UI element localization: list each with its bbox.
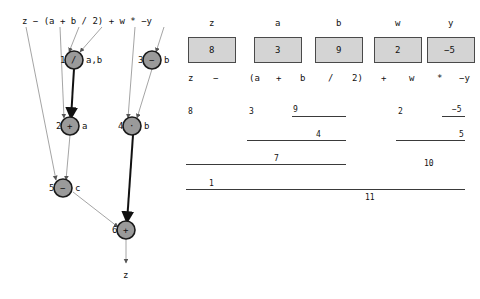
eval-leaf-z: 8 xyxy=(188,108,193,116)
variable-value-z: 8 xyxy=(209,46,214,55)
variable-name-b: b xyxy=(336,19,341,28)
eval-rule-a-plus xyxy=(247,140,346,141)
dag-node-1-op: / xyxy=(71,56,76,65)
dag-node-2-register: a xyxy=(82,122,87,131)
dag-node-1-register: a,b xyxy=(86,56,102,65)
dag-node-4-op: · xyxy=(129,122,134,131)
eval-leaf-y: −5 xyxy=(452,106,462,114)
token-z: z xyxy=(188,74,193,83)
eval-value-11: 11 xyxy=(365,194,375,202)
dag-node-5-op: − xyxy=(60,184,65,193)
dag-node-4-register: b xyxy=(144,122,149,131)
token-w: w xyxy=(409,74,414,83)
variable-name-a: a xyxy=(275,19,280,28)
dag-node-6-op: + xyxy=(123,226,128,235)
token-mul: * xyxy=(437,74,442,83)
eval-leaf-b: 9 xyxy=(293,106,298,114)
dag-node-3-index: 3 xyxy=(138,56,143,65)
variable-value-b: 9 xyxy=(336,46,341,55)
variable-name-y: y xyxy=(448,19,453,28)
eval-leaf-a: 3 xyxy=(249,108,254,116)
dag-node-5-register: c xyxy=(75,184,80,193)
dag-node-3-register: b xyxy=(164,56,169,65)
token-plus-1: + xyxy=(276,74,281,83)
screenshot-root: z − (a + b / 2) + w * −y / − + · − + 1 3… xyxy=(0,0,480,299)
eval-value-10: 10 xyxy=(424,160,434,168)
token-minus: − xyxy=(213,74,218,83)
dag-node-1-index: 1 xyxy=(60,56,65,65)
dag-node-2-index: 2 xyxy=(56,122,61,131)
eval-rule-final xyxy=(186,189,465,190)
variable-name-z: z xyxy=(209,19,214,28)
eval-value-7: 7 xyxy=(274,155,279,163)
eval-rule-b-div-2 xyxy=(292,116,346,117)
dag-output-label: z xyxy=(123,271,128,280)
token-plus-2: + xyxy=(381,74,386,83)
eval-leaf-w: 2 xyxy=(398,108,403,116)
dag-node-6-index: 6 xyxy=(112,226,117,235)
token-negy: −y xyxy=(459,74,470,83)
dag-node-circles xyxy=(54,51,161,239)
token-2-close: 2) xyxy=(352,74,363,83)
variable-value-y: −5 xyxy=(444,46,455,55)
variable-name-w: w xyxy=(395,19,400,28)
dag-node-2-op: + xyxy=(67,122,72,131)
eval-rule-z-minus xyxy=(186,164,346,165)
eval-value-1: 1 xyxy=(209,180,214,188)
eval-rule-neg-y xyxy=(442,116,465,117)
dag-node-5-index: 5 xyxy=(49,184,54,193)
dag-node-4-index: 4 xyxy=(118,122,123,131)
token-div: / xyxy=(328,74,333,83)
eval-value-4: 4 xyxy=(316,131,321,139)
eval-value-5: 5 xyxy=(459,131,464,139)
eval-rule-w-mul xyxy=(396,140,465,141)
token-b: b xyxy=(300,74,305,83)
variable-value-a: 3 xyxy=(275,46,280,55)
variable-value-w: 2 xyxy=(395,46,400,55)
token-open-a: (a xyxy=(249,74,260,83)
dag-node-3-op: − xyxy=(149,56,154,65)
